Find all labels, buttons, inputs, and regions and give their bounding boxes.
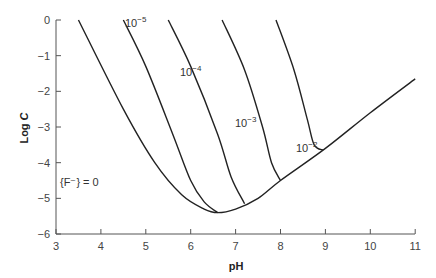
x-tick-label: 8 <box>277 240 283 252</box>
x-tick-label: 5 <box>143 240 149 252</box>
curve-label: 10−5 <box>125 15 147 29</box>
curve-3 <box>222 20 280 181</box>
y-tick-label: −3 <box>37 121 50 133</box>
curve-label: 10−3 <box>235 115 257 129</box>
y-tick-label: −6 <box>37 228 50 240</box>
y-tick-label: 0 <box>44 14 50 26</box>
x-tick-label: 3 <box>53 240 59 252</box>
y-axis-title: Log C <box>18 111 30 143</box>
x-tick-label: 4 <box>98 240 104 252</box>
curve-label: 10−2 <box>296 140 318 154</box>
y-tick-label: −1 <box>37 50 50 62</box>
curve-label: {F⁻} = 0 <box>60 176 99 188</box>
x-tick-label: 7 <box>233 240 239 252</box>
x-ticks: 34567891011 <box>53 229 421 252</box>
curve-label: 10−4 <box>180 64 202 78</box>
y-tick-label: −2 <box>37 85 50 97</box>
curve-2 <box>168 20 244 204</box>
x-tick-label: 11 <box>409 240 420 252</box>
y-tick-label: −5 <box>37 192 50 204</box>
curve-labels: {F⁻} = 010−510−410−310−2 <box>60 15 318 188</box>
y-ticks: 0−1−2−3−4−5−6 <box>37 14 61 240</box>
x-tick-label: 9 <box>322 240 328 252</box>
chart: 0−1−2−3−4−5−6 34567891011 {F⁻} = 010−510… <box>0 0 436 278</box>
x-axis-title: pH <box>229 260 244 272</box>
x-tick-label: 6 <box>188 240 194 252</box>
curve-4 <box>276 20 323 150</box>
y-tick-label: −4 <box>37 157 50 169</box>
x-tick-label: 10 <box>364 240 376 252</box>
